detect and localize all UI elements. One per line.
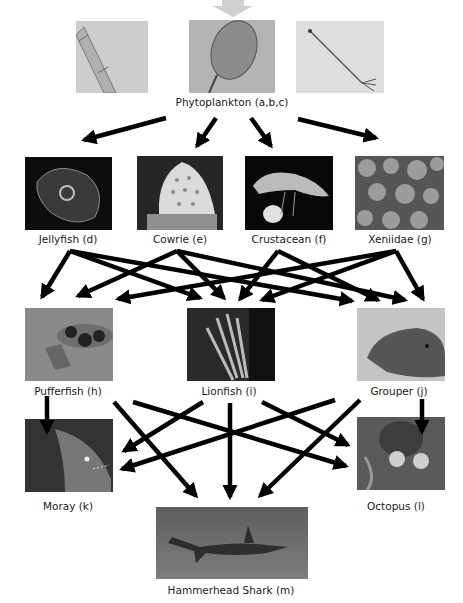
- food-web-arrows: [0, 0, 463, 603]
